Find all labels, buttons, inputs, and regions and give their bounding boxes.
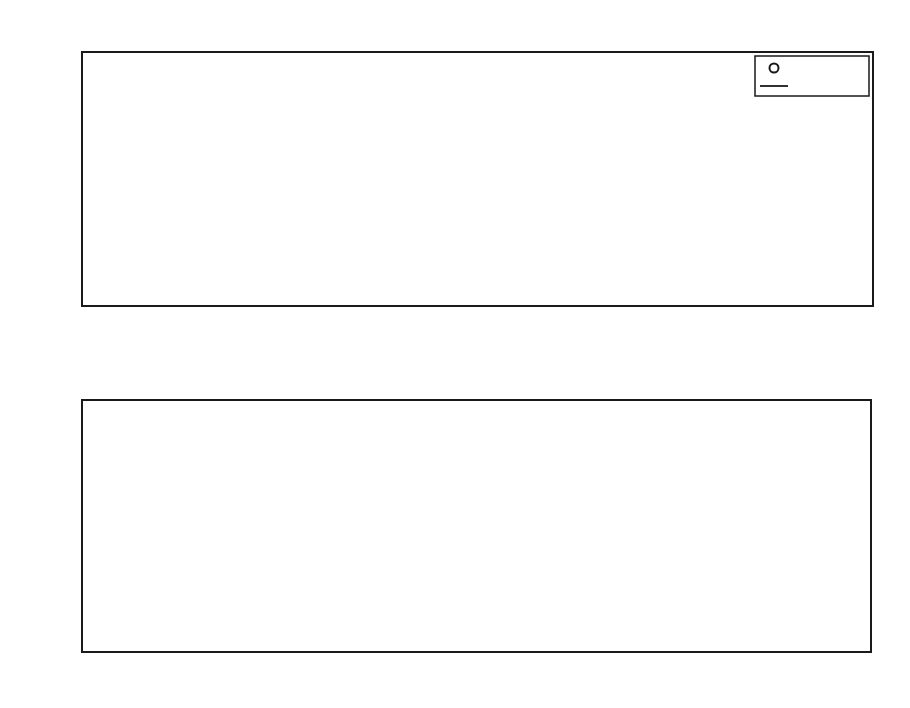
residuals-plot xyxy=(82,400,871,652)
legend xyxy=(755,56,869,96)
legend-box xyxy=(755,56,869,96)
viscosity-plot xyxy=(82,52,873,306)
figure xyxy=(0,0,910,708)
plot-frame xyxy=(82,400,871,652)
